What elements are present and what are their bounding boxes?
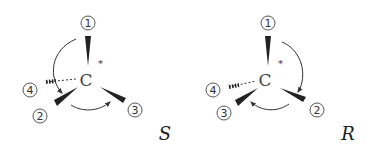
svg-text:2: 2 [314, 104, 321, 117]
substituent-2-label: 2 [310, 103, 324, 117]
rotation-arrow-2-to-3 [71, 102, 110, 110]
svg-text:4: 4 [27, 84, 34, 97]
rotation-arrow-2-to-3 [251, 102, 289, 110]
substituent-4-label: 4 [206, 83, 220, 97]
substituent-3-label: 3 [217, 106, 231, 120]
rotation-arrow-1-to-2 [282, 42, 303, 92]
wedge-bond-2 [54, 87, 78, 106]
svg-text:2: 2 [37, 110, 44, 123]
wedge-bond-2 [280, 88, 306, 102]
substituent-3-label: 3 [128, 103, 142, 117]
stereo-mark: * [98, 58, 103, 69]
configuration-label-r: R [340, 123, 355, 144]
substituent-4-label: 4 [23, 83, 37, 97]
molecule-r: 1 C * 4 3 2 R [206, 16, 355, 144]
substituent-1-label: 1 [81, 16, 95, 30]
chiral-carbon: C [79, 70, 92, 90]
rotation-arrow-1-to-2 [53, 39, 76, 93]
chiral-carbon: C [258, 70, 271, 90]
substituent-2-label: 2 [33, 109, 47, 123]
wedge-bond-1 [85, 36, 91, 66]
svg-text:1: 1 [85, 17, 92, 30]
svg-text:3: 3 [221, 107, 228, 120]
configuration-label-s: S [159, 123, 171, 144]
substituent-1-label: 1 [261, 16, 275, 30]
svg-text:4: 4 [210, 84, 217, 97]
wedge-bond-3 [100, 87, 126, 103]
stereo-mark: * [278, 58, 283, 69]
svg-text:1: 1 [265, 17, 272, 30]
svg-text:3: 3 [132, 104, 139, 117]
molecule-s: 1 C * 4 2 3 S [23, 16, 171, 144]
hashed-bond-4 [46, 79, 76, 82]
stereo-diagram-canvas: 1 C * 4 2 3 S [0, 0, 375, 148]
wedge-bond-1 [265, 36, 271, 66]
hashed-bond-4 [229, 81, 256, 87]
wedge-bond-3 [235, 88, 258, 106]
